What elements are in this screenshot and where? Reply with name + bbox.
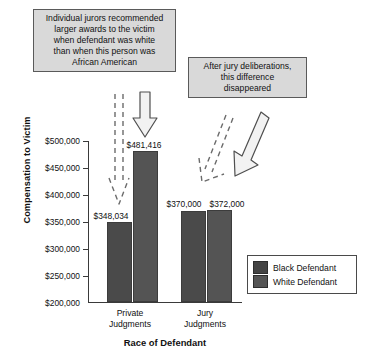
x-category-jury-line-2: Judgments <box>170 319 240 330</box>
y-tick-label-500000: $500,000 <box>45 136 80 146</box>
chart-legend: Black Defendant White Defendant <box>247 255 357 294</box>
y-tick-label-350000: $350,000 <box>45 217 80 227</box>
legend-swatch-white-defendant <box>253 275 268 288</box>
x-category-private-line-2: Judgments <box>95 319 165 330</box>
plot-area <box>88 141 240 302</box>
bar-jury-white-defendant[interactable] <box>207 210 232 302</box>
legend-label-black-defendant: Black Defendant <box>273 263 336 273</box>
callout-right-line-2: this difference <box>193 72 302 83</box>
y-tick-label-400000: $400,000 <box>45 190 80 200</box>
bar-value-label-private-white: $481,416 <box>120 140 168 150</box>
callout-right-line-3: disappeared <box>193 83 302 94</box>
bar-private-white-defendant[interactable] <box>133 151 158 302</box>
y-tick-label-250000: $250,000 <box>45 271 80 281</box>
legend-label-white-defendant: White Defendant <box>273 277 337 287</box>
y-tick-label-450000: $450,000 <box>45 163 80 173</box>
y-tick-label-200000: $200,000 <box>45 298 80 308</box>
bar-jury-black-defendant[interactable] <box>181 211 206 302</box>
legend-item-black-defendant[interactable]: Black Defendant <box>253 261 351 274</box>
callout-after-deliberations: After jury deliberations, this differenc… <box>188 57 307 98</box>
y-tick-label-300000: $300,000 <box>45 244 80 254</box>
y-axis-labels: $500,000 $450,000 $400,000 $350,000 $300… <box>0 0 80 359</box>
x-axis-line <box>88 302 242 303</box>
bar-private-black-defendant[interactable] <box>107 222 132 302</box>
bar-value-label-jury-black: $370,000 <box>160 199 208 209</box>
bar-value-label-jury-white: $372,000 <box>203 199 251 209</box>
x-category-private-line-1: Private <box>95 308 165 319</box>
x-category-jury-line-1: Jury <box>170 308 240 319</box>
x-axis-title: Race of Defendant <box>88 337 242 348</box>
x-category-jury-judgments: Jury Judgments <box>170 308 240 329</box>
legend-swatch-black-defendant <box>253 261 268 274</box>
arrow-solid-to-white-bar <box>131 91 159 139</box>
x-category-private-judgments: Private Judgments <box>95 308 165 329</box>
callout-right-line-1: After jury deliberations, <box>193 61 302 72</box>
chart-canvas: Individual jurors recommended larger awa… <box>0 0 376 359</box>
legend-item-white-defendant[interactable]: White Defendant <box>253 275 351 288</box>
bar-value-label-private-black: $348,034 <box>87 211 135 221</box>
